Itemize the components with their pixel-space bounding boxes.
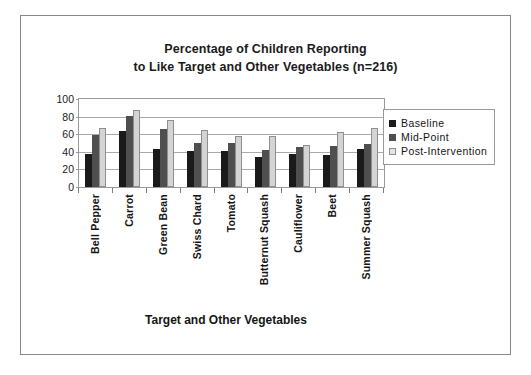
y-axis-tick-label: 0 xyxy=(68,181,74,193)
bar-midpoint xyxy=(160,129,167,187)
legend-swatch-icon xyxy=(389,120,396,127)
x-axis-label-cauliflower: Cauliflower xyxy=(292,194,304,253)
legend-swatch-icon xyxy=(389,134,396,141)
x-axis-label-carrot: Carrot xyxy=(123,194,135,227)
bar-group xyxy=(316,99,350,187)
legend-label: Baseline xyxy=(401,117,444,129)
x-axis-label-butternut-squash: Butternut Squash xyxy=(258,194,270,285)
bar-post xyxy=(371,128,378,187)
y-axis-tick-label: 100 xyxy=(56,93,74,105)
x-axis-tick-mark xyxy=(349,188,350,193)
bar-baseline xyxy=(255,157,262,187)
bar-group xyxy=(79,99,113,187)
chart-title: Percentage of Children Reporting to Like… xyxy=(21,40,510,76)
x-axis-tick-mark xyxy=(383,188,384,193)
chart-title-line-2: to Like Target and Other Vegetables (n=2… xyxy=(21,58,510,76)
bar-group xyxy=(350,99,384,187)
bar-post xyxy=(337,132,344,187)
bar-baseline xyxy=(323,155,330,187)
bar-baseline xyxy=(289,154,296,187)
bar-baseline xyxy=(85,154,92,187)
x-axis-tick-mark xyxy=(180,188,181,193)
bar-post xyxy=(269,136,276,187)
legend-label: Mid-Point xyxy=(401,131,449,143)
bar-baseline xyxy=(119,131,126,187)
x-axis-category-labels: Bell PepperCarrotGreen BeanSwiss ChardTo… xyxy=(78,194,385,299)
y-axis-tick-label: 60 xyxy=(62,128,74,140)
y-axis-tick-label: 80 xyxy=(62,111,74,123)
legend-item: Post-Intervention xyxy=(389,145,487,157)
y-axis-tick-label: 20 xyxy=(62,163,74,175)
y-axis-tick-label: 40 xyxy=(62,146,74,158)
bar-group xyxy=(181,99,215,187)
x-axis-tick-mark xyxy=(112,188,113,193)
x-axis-tick-mark xyxy=(247,188,248,193)
bar-baseline xyxy=(357,149,364,187)
bar-baseline xyxy=(153,149,160,187)
x-axis-tick-mark xyxy=(315,188,316,193)
bar-post xyxy=(201,130,208,187)
legend-item: Mid-Point xyxy=(389,131,487,143)
plot-area: 020406080100 xyxy=(78,98,385,188)
x-axis-label-beet: Beet xyxy=(326,194,338,218)
bar-post xyxy=(167,120,174,187)
bar-midpoint xyxy=(330,146,337,187)
x-axis-tick-mark xyxy=(78,188,79,193)
bar-midpoint xyxy=(194,143,201,187)
bar-group xyxy=(248,99,282,187)
bar-group xyxy=(282,99,316,187)
bar-midpoint xyxy=(296,147,303,187)
bar-post xyxy=(235,136,242,187)
legend-label: Post-Intervention xyxy=(401,145,487,157)
bar-group xyxy=(147,99,181,187)
bar-midpoint xyxy=(364,144,371,187)
bar-midpoint xyxy=(126,116,133,187)
legend-swatch-icon xyxy=(389,148,396,155)
x-axis-label-green-bean: Green Bean xyxy=(157,194,169,255)
bar-post xyxy=(133,110,140,187)
bar-group xyxy=(113,99,147,187)
bar-post xyxy=(99,128,106,187)
x-axis-label-bell-pepper: Bell Pepper xyxy=(89,194,101,254)
chart-legend: BaselineMid-PointPost-Intervention xyxy=(383,109,495,165)
bar-midpoint xyxy=(92,135,99,187)
x-axis-title: Target and Other Vegetables xyxy=(61,313,391,327)
x-axis-label-tomato: Tomato xyxy=(225,194,237,232)
bar-group xyxy=(215,99,249,187)
x-axis-tick-mark xyxy=(214,188,215,193)
bar-post xyxy=(303,145,310,187)
chart-title-line-1: Percentage of Children Reporting xyxy=(21,40,510,58)
x-axis-label-swiss-chard: Swiss Chard xyxy=(191,194,203,259)
figure-frame: Percentage of Children Reporting to Like… xyxy=(20,15,511,355)
x-axis-label-summer-squash: Summer Squash xyxy=(360,194,372,279)
legend-item: Baseline xyxy=(389,117,487,129)
bars-layer xyxy=(79,99,384,187)
bar-midpoint xyxy=(228,143,235,187)
x-axis-tick-mark xyxy=(281,188,282,193)
bar-baseline xyxy=(187,151,194,187)
x-axis-tick-mark xyxy=(146,188,147,193)
bar-midpoint xyxy=(262,150,269,187)
bar-baseline xyxy=(221,151,228,187)
